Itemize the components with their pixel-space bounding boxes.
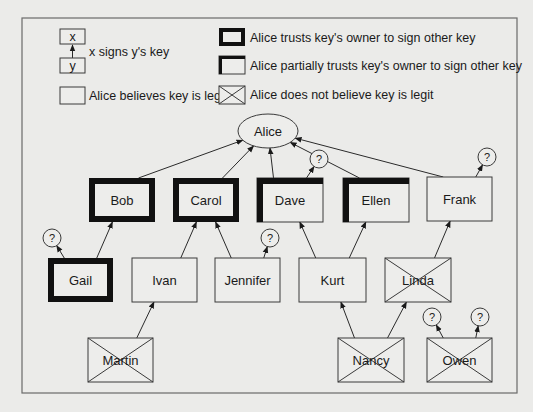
node-label: Linda (402, 273, 435, 288)
signature-edge-carol-to-alice (223, 146, 254, 178)
legend-partial: Alice partially trusts key's owner to si… (219, 56, 523, 74)
signature-edge-kurt-to-dave (300, 222, 316, 258)
legend-partial-top (219, 56, 245, 59)
unknown-key-q_frank: ? (478, 148, 496, 166)
unknown-key-q_gail: ? (43, 229, 61, 247)
legend-believes: Alice believes key is legit (60, 87, 228, 104)
node-label: Martin (102, 353, 138, 368)
node-ivan[interactable]: Ivan (132, 258, 197, 302)
key-nodes: AliceBobCarolDaveEllenFrankGailIvanJenni… (43, 114, 496, 382)
node-jennifer[interactable]: Jennifer (215, 258, 280, 302)
signature-edge-dave-to-q_dave (307, 167, 315, 178)
unknown-key-q_jennifer: ? (261, 229, 279, 247)
signature-edge-bob-to-alice (139, 140, 243, 178)
question-mark-label: ? (49, 232, 55, 244)
signature-edge-nancy-to-kurt (341, 302, 355, 338)
signature-edge-gail-to-bob (97, 222, 113, 258)
signature-edge-jennifer-to-carol (216, 222, 232, 258)
node-bob[interactable]: Bob (89, 178, 155, 222)
node-gail[interactable]: Gail (48, 258, 113, 302)
signature-edge-martin-to-ivan (137, 302, 154, 338)
node-dave[interactable]: Dave (257, 178, 323, 222)
node-frank[interactable]: Frank (427, 177, 492, 221)
node-martin[interactable]: Martin (88, 338, 153, 382)
signature-edge-gail-to-q_gail (57, 246, 65, 258)
legend-not-believe-text: Alice does not believe key is legit (250, 88, 434, 102)
legend-x-label: x (69, 30, 76, 44)
question-mark-label: ? (429, 311, 435, 323)
node-ellen[interactable]: Ellen (343, 178, 409, 222)
node-label: Nancy (353, 353, 390, 368)
question-mark-label: ? (316, 153, 322, 165)
legend-partial-text: Alice partially trusts key's owner to si… (250, 59, 523, 73)
node-linda[interactable]: Linda (385, 258, 451, 302)
legend-signs-text: x signs y's key (89, 45, 170, 59)
legend-signs: x y x signs y's key (60, 29, 170, 73)
node-label: Carol (190, 193, 221, 208)
legend-partial-left (219, 56, 222, 74)
legend-trusts: Alice trusts key's owner to sign other k… (219, 28, 476, 46)
signature-edge-owen-to-q_owen_left (436, 325, 443, 338)
legend: x y x signs y's key Alice believes key i… (60, 28, 523, 104)
signature-edge-kurt-to-ellen (349, 222, 366, 258)
unknown-key-q_owen_right: ? (471, 308, 489, 326)
node-nancy[interactable]: Nancy (338, 338, 404, 382)
signature-edge-nancy-to-linda (388, 302, 407, 338)
node-label: Ivan (152, 273, 177, 288)
node-label: Kurt (321, 273, 345, 288)
unknown-key-q_dave: ? (310, 150, 328, 168)
partial-trust-top (343, 178, 409, 184)
node-label: Gail (69, 273, 92, 288)
question-mark-label: ? (477, 311, 483, 323)
legend-trusts-text: Alice trusts key's owner to sign other k… (250, 31, 476, 45)
node-label: Frank (443, 192, 477, 207)
legend-trusts-box-inner (223, 32, 241, 42)
node-label: Owen (443, 353, 477, 368)
web-of-trust-diagram: x y x signs y's key Alice believes key i… (0, 0, 533, 412)
legend-believes-text: Alice believes key is legit (89, 89, 228, 103)
signature-edge-jennifer-to-q_jennifer (264, 247, 268, 258)
node-owen[interactable]: Owen (427, 338, 492, 382)
signature-edge-frank-to-q_frank (476, 165, 483, 177)
legend-not-believe: Alice does not believe key is legit (219, 86, 434, 104)
signature-edge-owen-to-q_owen_right (476, 326, 478, 338)
node-carol[interactable]: Carol (173, 178, 239, 222)
signature-edge-linda-to-frank (435, 221, 451, 258)
question-mark-label: ? (484, 151, 490, 163)
legend-believes-box (60, 87, 85, 104)
partial-trust-top (257, 178, 323, 184)
node-kurt[interactable]: Kurt (299, 258, 366, 302)
partial-trust-left (257, 178, 263, 222)
node-label: Jennifer (224, 273, 271, 288)
partial-trust-left (343, 178, 349, 222)
unknown-key-q_owen_left: ? (423, 308, 441, 326)
node-label: Ellen (362, 193, 391, 208)
node-label: Dave (275, 193, 305, 208)
legend-y-label: y (69, 59, 76, 73)
signature-edge-ivan-to-carol (181, 222, 197, 258)
node-label: Alice (254, 124, 282, 139)
node-alice[interactable]: Alice (238, 114, 298, 148)
node-label: Bob (110, 193, 133, 208)
signature-edge-dave-to-alice (270, 148, 274, 178)
question-mark-label: ? (267, 232, 273, 244)
